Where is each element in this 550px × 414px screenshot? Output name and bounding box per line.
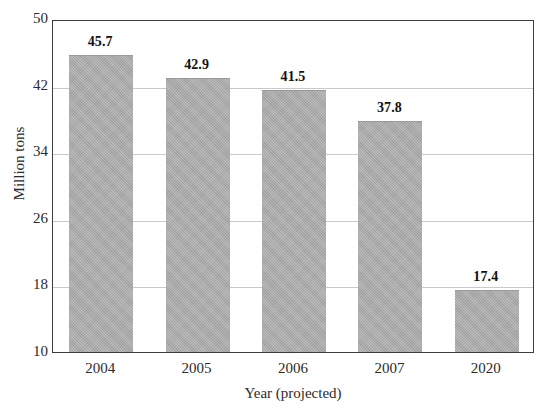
x-axis-tick-label: 2007 bbox=[344, 360, 434, 377]
bar-value-label: 17.4 bbox=[446, 269, 526, 285]
bar-value-label: 37.8 bbox=[349, 100, 429, 116]
bar bbox=[166, 78, 230, 352]
x-axis-tick-label: 2005 bbox=[152, 360, 242, 377]
y-axis-title: Million tons bbox=[11, 104, 28, 224]
y-axis-tick-label: 42 bbox=[8, 77, 48, 94]
bar bbox=[455, 290, 519, 352]
x-axis-tick-label: 2006 bbox=[248, 360, 338, 377]
y-axis-tick-label: 18 bbox=[8, 276, 48, 293]
y-axis-tick-label: 10 bbox=[8, 343, 48, 360]
y-axis-tick-label: 50 bbox=[8, 10, 48, 27]
x-axis-tick-label: 2004 bbox=[55, 360, 145, 377]
chart-title-clipped bbox=[0, 0, 550, 9]
bar bbox=[69, 55, 133, 352]
x-axis-title: Year (projected) bbox=[52, 385, 534, 402]
bar-chart-figure: 101826344250 20042005200620072020 45.742… bbox=[0, 0, 550, 414]
x-axis-tick-label: 2020 bbox=[441, 360, 531, 377]
bar-value-label: 41.5 bbox=[253, 69, 333, 85]
bar-value-label: 42.9 bbox=[157, 57, 237, 73]
bar bbox=[358, 121, 422, 352]
bar-value-label: 45.7 bbox=[60, 34, 140, 50]
bar bbox=[262, 90, 326, 352]
